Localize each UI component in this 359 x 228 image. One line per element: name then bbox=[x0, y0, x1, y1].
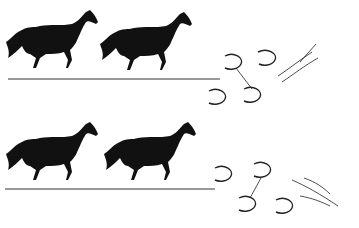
horse-4 bbox=[104, 122, 196, 180]
hoofprint-icon bbox=[258, 50, 276, 65]
hoofprint-icon bbox=[239, 196, 256, 211]
motion-lines bbox=[292, 178, 338, 206]
horse-gait-illustration bbox=[0, 0, 359, 228]
horse-3 bbox=[6, 122, 98, 180]
hoofprint-icon bbox=[225, 54, 242, 69]
hoofprints-row-2 bbox=[215, 162, 338, 213]
hoofprint-icon bbox=[244, 87, 261, 102]
hoofprint-icon bbox=[209, 89, 226, 104]
hoofprint-icon bbox=[215, 166, 232, 181]
horse-1 bbox=[6, 10, 98, 68]
hoofprint-icon bbox=[276, 198, 293, 213]
illustration-canvas bbox=[0, 0, 359, 228]
hoofprints-row-1 bbox=[209, 44, 318, 104]
horse-2 bbox=[100, 12, 192, 70]
hoofprint-icon bbox=[254, 162, 271, 177]
motion-lines bbox=[278, 44, 318, 82]
connector-line bbox=[236, 68, 252, 89]
connector-line bbox=[250, 178, 261, 198]
